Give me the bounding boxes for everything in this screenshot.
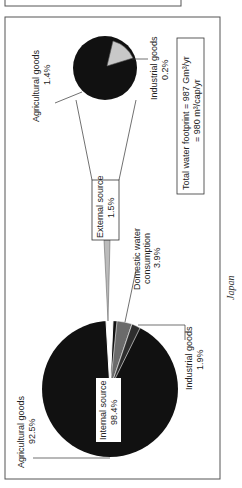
total-footprint-line2: = 980 m³/cap/yr <box>192 79 202 142</box>
agricultural-external-slice <box>73 36 137 100</box>
domestic-label-1: Domestic water <box>132 228 142 290</box>
funnel-line-left <box>76 100 92 180</box>
small-pie <box>73 36 137 100</box>
total-footprint-line1: Total water footprint = 987 Gm³/yr <box>181 56 191 190</box>
water-footprint-figure: External source 1.5% Internal source 98.… <box>0 0 242 488</box>
industrial-external-pct: 0.2% <box>160 59 170 80</box>
figure-caption: Japan <box>225 276 236 300</box>
agri-external-leader <box>55 92 82 103</box>
industrial-internal-pct: 1.9% <box>195 349 205 370</box>
external-source-pct: 1.5% <box>106 197 116 218</box>
industrial-internal-label: Industrial goods <box>184 326 194 390</box>
domestic-label-2: consumption <box>142 233 152 284</box>
agri-internal-label: Agricultural goods <box>16 395 26 468</box>
internal-source-pct: 98.4% <box>109 399 119 425</box>
industrial-external-label: Industrial goods <box>149 36 159 100</box>
funnel-line-right <box>119 100 136 180</box>
previous-figure-frame <box>5 0 181 6</box>
agri-external-label: Agricultural goods <box>31 49 41 122</box>
domestic-pct: 3.9% <box>152 247 162 268</box>
agri-external-pct: 1.4% <box>42 64 52 85</box>
external-wedge <box>104 240 110 321</box>
external-source-label: External source <box>95 175 105 238</box>
internal-source-label: Internal source <box>98 380 108 440</box>
agri-internal-pct: 92.5% <box>27 418 37 444</box>
